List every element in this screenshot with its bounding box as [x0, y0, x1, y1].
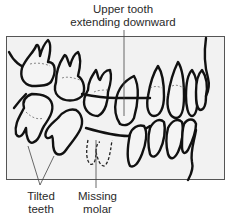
label-line-2: molar: [70, 203, 125, 216]
label-missing-molar: Missing molar: [70, 190, 125, 216]
label-line-2: teeth: [16, 203, 66, 216]
label-tilted-teeth: Tilted teeth: [16, 190, 66, 216]
label-line-1: Missing: [70, 190, 125, 203]
label-line-1: Tilted: [16, 190, 66, 203]
upper-incisor-4: [196, 70, 207, 110]
dental-diagram: [0, 0, 231, 222]
